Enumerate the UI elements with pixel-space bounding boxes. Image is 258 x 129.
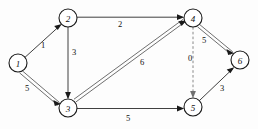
edge-3-to-4-weight: 6 [140,57,144,67]
edge-2-to-3-arrowhead [65,92,71,99]
edge-4-to-5: 0 [188,27,196,98]
edge-4-to-5-weight: 0 [188,53,192,63]
node-5-label: 5 [191,103,196,113]
node-3-label: 3 [65,104,71,114]
node-4-label: 4 [191,14,196,24]
edge-5-to-6: 3 [199,67,234,100]
edge-2-to-3: 3 [65,27,76,99]
edge-1-to-3: 5 [20,71,62,106]
node-5[interactable]: 5 [184,98,202,116]
edge-5-to-6-line [199,69,233,101]
node-2-label: 2 [66,14,71,24]
edge-5-to-6-arrowhead [227,67,235,73]
edge-4-to-6-weight: 5 [202,35,206,45]
edge-1-to-3-weight: 5 [25,83,29,93]
edge-4-to-6: 5 [198,24,235,55]
edge-3-to-4-line-a [76,22,185,102]
edge-2-to-4-arrowhead [177,14,184,20]
edge-5-to-6-weight: 3 [220,83,224,93]
edge-1-to-2: 1 [25,24,62,57]
node-6-label: 6 [238,56,243,66]
node-1[interactable]: 1 [9,54,27,72]
graph-svg: 1 5 3 2 6 [0,0,258,129]
edge-4-to-5-arrowhead [190,91,196,98]
edge-2-to-3-weight: 3 [72,47,76,57]
edge-3-to-5-arrowhead [177,106,184,112]
node-2[interactable]: 2 [59,9,77,27]
edge-3-to-4-line-b [74,19,183,99]
edge-1-to-2-arrowhead [54,24,62,30]
edge-3-to-4: 6 [74,19,186,102]
node-1-label: 1 [16,59,21,69]
edge-3-to-5-weight: 5 [126,113,130,123]
node-6[interactable]: 6 [231,51,249,69]
edge-1-to-2-weight: 1 [41,40,45,50]
node-3[interactable]: 3 [59,99,77,117]
edge-3-to-5: 5 [77,106,184,123]
node-4[interactable]: 4 [184,9,202,27]
edge-2-to-4: 2 [77,14,184,29]
graph-diagram-canvas: 1 5 3 2 6 [0,0,258,129]
edge-2-to-4-weight: 2 [118,19,122,29]
